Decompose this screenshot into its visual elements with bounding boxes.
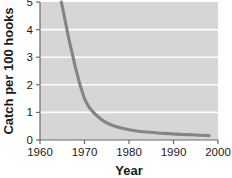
chart-container: 012345 19601970198019902000 Year Catch p… bbox=[0, 0, 232, 178]
y-tick-label-0: 0 bbox=[27, 134, 33, 146]
x-tick-label-1960: 1960 bbox=[27, 146, 53, 158]
y-tick-label-1: 1 bbox=[27, 106, 33, 118]
line-chart: 012345 19601970198019902000 Year Catch p… bbox=[0, 0, 232, 178]
y-axis-title: Catch per 100 hooks bbox=[1, 7, 16, 134]
x-axis-title: Year bbox=[115, 163, 142, 178]
y-tick-label-5: 5 bbox=[27, 0, 33, 8]
y-tick-label-2: 2 bbox=[27, 79, 33, 91]
x-tick-label-1970: 1970 bbox=[72, 146, 98, 158]
x-tick-label-1990: 1990 bbox=[161, 146, 187, 158]
x-tick-label-1980: 1980 bbox=[116, 146, 142, 158]
y-tick-label-4: 4 bbox=[27, 24, 34, 36]
y-tick-label-3: 3 bbox=[27, 51, 33, 63]
x-tick-label-2000: 2000 bbox=[205, 146, 231, 158]
